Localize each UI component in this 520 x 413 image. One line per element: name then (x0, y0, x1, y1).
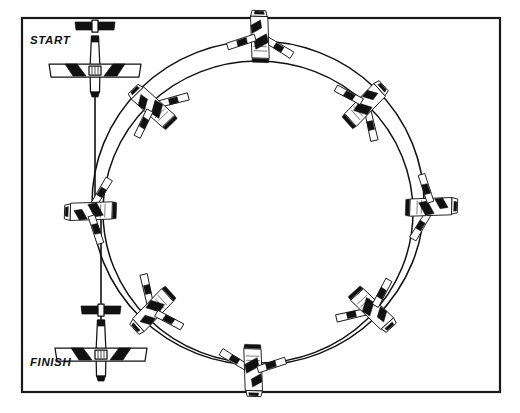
flight-path-diagram: START FINISH (0, 0, 520, 413)
aircraft-start (49, 20, 141, 97)
aircraft-lower-left (110, 268, 194, 353)
start-label: START (30, 34, 71, 46)
aircraft-right (404, 173, 458, 242)
aircraft-upper-right (324, 62, 408, 147)
figure-canvas: START FINISH (0, 0, 520, 413)
aircraft-finish (55, 304, 147, 381)
aircraft-bottom (218, 343, 287, 397)
finish-label: FINISH (30, 356, 71, 368)
aircraft-left (63, 176, 117, 245)
